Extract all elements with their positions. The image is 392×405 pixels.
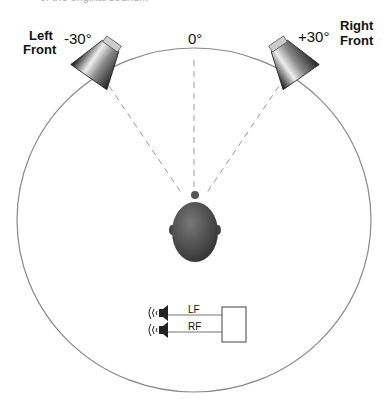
lf-small-speaker-icon [149,305,168,321]
rf-small-speaker-icon [149,322,168,338]
left-speaker-name-2: Front [23,42,57,57]
stereo-diagram: Left Front -30° 0° +30° Right Front LF R… [0,0,392,405]
listener-head-icon [169,191,221,262]
right-speaker-name-2: Front [340,33,374,48]
right-sight-line [206,77,285,194]
rf-label: RF [188,321,201,332]
left-speaker-name-1: Left [29,28,54,43]
center-angle-label: 0° [188,30,202,47]
right-angle-label: +30° [298,28,329,45]
left-sight-line [103,77,182,194]
right-speaker-name-1: Right [340,18,374,33]
lf-label: LF [188,304,200,315]
left-angle-label: -30° [64,30,92,47]
amplifier-box [222,307,246,342]
channel-schematic: LF RF [149,304,246,342]
